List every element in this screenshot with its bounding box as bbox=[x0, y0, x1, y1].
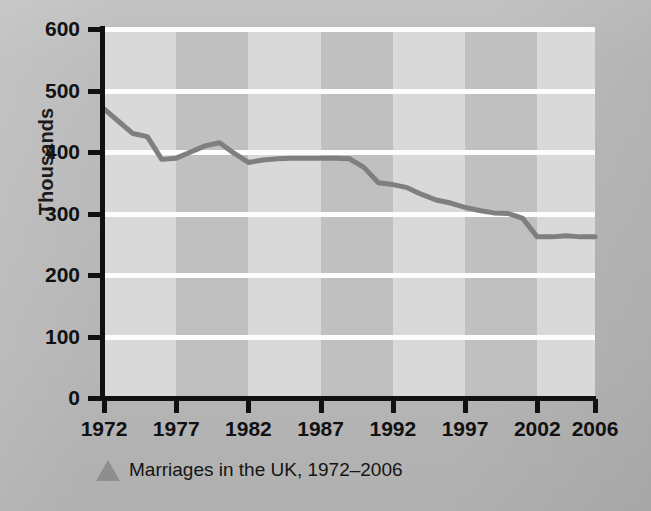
plot-area bbox=[104, 29, 595, 398]
triangle-marker-icon bbox=[96, 460, 120, 481]
y-tick bbox=[88, 273, 101, 278]
figure-caption: Marriages in the UK, 1972–2006 bbox=[96, 459, 403, 481]
y-tick-label: 200 bbox=[16, 264, 80, 285]
y-tick-label: 600 bbox=[16, 18, 80, 39]
y-tick bbox=[88, 335, 101, 340]
y-tick bbox=[88, 150, 101, 155]
y-tick bbox=[88, 212, 101, 217]
x-tick-label: 1977 bbox=[136, 418, 216, 439]
x-tick-label: 1982 bbox=[208, 418, 288, 439]
y-tick-label: 400 bbox=[16, 141, 80, 162]
y-tick bbox=[88, 396, 101, 401]
x-tick bbox=[391, 399, 396, 413]
chart-figure: Thousands 6005004003002001000 1972197719… bbox=[0, 0, 651, 511]
y-tick-label: 300 bbox=[16, 203, 80, 224]
x-tick bbox=[319, 399, 324, 413]
caption-text: Marriages in the UK, 1972–2006 bbox=[129, 459, 403, 481]
y-tick bbox=[88, 27, 101, 32]
x-tick-label: 1987 bbox=[281, 418, 361, 439]
x-tick bbox=[593, 399, 598, 413]
x-tick-label: 1972 bbox=[64, 418, 144, 439]
series-line-marriages bbox=[104, 109, 595, 237]
x-tick-label: 1997 bbox=[425, 418, 505, 439]
x-tick bbox=[463, 399, 468, 413]
x-tick bbox=[246, 399, 251, 413]
x-tick bbox=[102, 399, 107, 413]
y-tick-label: 0 bbox=[16, 387, 80, 408]
x-tick-label: 2006 bbox=[555, 418, 635, 439]
series-line-layer bbox=[104, 29, 595, 398]
y-tick-label: 500 bbox=[16, 80, 80, 101]
x-tick-label: 1992 bbox=[353, 418, 433, 439]
y-tick-label: 100 bbox=[16, 326, 80, 347]
x-tick bbox=[174, 399, 179, 413]
x-tick bbox=[535, 399, 540, 413]
y-tick bbox=[88, 89, 101, 94]
